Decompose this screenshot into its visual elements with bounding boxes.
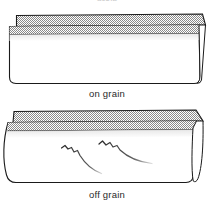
fabric-grain-illustration: [0, 0, 214, 200]
panel-on-grain: [10, 14, 206, 84]
figure-container: grain: [0, 0, 214, 200]
panel-off-grain: [4, 110, 203, 183]
off-grain-back-flap: [13, 110, 203, 123]
on-grain-front-panel: [10, 25, 201, 84]
caption-off-grain: off grain: [0, 189, 214, 200]
off-grain-flap-hatch-band: [13, 110, 203, 123]
off-grain-curled-edge: [192, 121, 203, 182]
caption-on-grain: on grain: [0, 88, 214, 99]
on-grain-fold-shadow: [10, 34, 200, 42]
off-grain-curl-sliver: [192, 121, 203, 182]
on-grain-fold-hatch-band: [10, 25, 200, 35]
